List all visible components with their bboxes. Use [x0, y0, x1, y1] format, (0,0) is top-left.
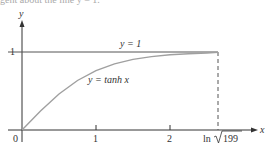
- y-axis-label: y: [18, 8, 24, 19]
- tanh-curve: [22, 52, 218, 130]
- asymptote-label: y = 1: [119, 38, 141, 49]
- svg-text:199: 199: [223, 133, 238, 144]
- x-axis-arrow-icon: [251, 128, 258, 133]
- tanh-chart: y x 1 y = 1 y = tanh x 0 1 2 ln 199: [0, 0, 268, 147]
- y-axis-arrow-icon: [20, 20, 25, 27]
- ytick-1-label: 1: [10, 46, 15, 57]
- origin-label: 0: [13, 133, 18, 144]
- x-axis-label: x: [259, 124, 265, 135]
- xtick-2-label: 2: [167, 133, 172, 144]
- svg-text:ln: ln: [203, 133, 211, 144]
- xtick-ln-sqrt199-label: ln 199: [203, 131, 242, 144]
- xtick-1-label: 1: [93, 133, 98, 144]
- curve-label: y = tanh x: [87, 74, 129, 85]
